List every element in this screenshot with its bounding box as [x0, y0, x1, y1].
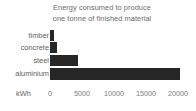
chart-title-line-2: one tonne of finished material — [44, 13, 160, 24]
x-tick-label: 5000 — [74, 88, 90, 99]
category-label-steel: steel — [5, 55, 49, 66]
bar-timber — [50, 30, 54, 41]
x-tick-label: 10000 — [104, 88, 124, 99]
bar-chart: Energy consumed to produce one tonne of … — [0, 0, 196, 111]
x-tick-label: 15000 — [136, 88, 156, 99]
bar-steel — [50, 55, 78, 66]
bar-row: steel — [0, 55, 196, 66]
category-label-concrete: concrete — [5, 42, 49, 53]
bar-concrete — [50, 42, 57, 53]
bar-row: timber — [0, 30, 196, 41]
x-tick-label: 20000 — [168, 88, 188, 99]
x-axis: kWh 0 5000 10000 15000 20000 — [0, 88, 196, 102]
bar-row: concrete — [0, 42, 196, 53]
category-label-timber: timber — [5, 30, 49, 41]
chart-title-line-1: Energy consumed to produce — [44, 2, 160, 13]
bar-row: aluminium — [0, 68, 196, 79]
plot-area: timber concrete steel aluminium — [0, 28, 196, 86]
x-axis-unit-label: kWh — [16, 88, 31, 99]
bar-aluminium — [50, 68, 180, 80]
category-label-aluminium: aluminium — [5, 68, 49, 79]
x-tick-label: 0 — [48, 88, 52, 99]
chart-title: Energy consumed to produce one tonne of … — [44, 2, 160, 24]
